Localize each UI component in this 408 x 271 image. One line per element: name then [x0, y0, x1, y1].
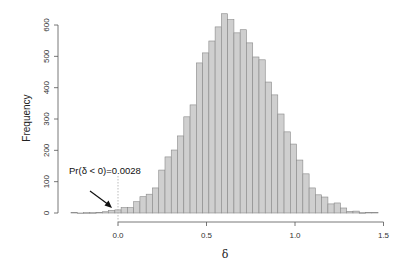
x-axis: 0.00.51.01.5 — [112, 222, 389, 240]
histogram-bar — [96, 212, 102, 213]
x-tick-label: 1.5 — [378, 231, 390, 240]
histogram-bar — [203, 53, 209, 213]
histogram-bar — [228, 20, 234, 213]
histogram-bar — [165, 157, 171, 213]
y-tick-label: 0 — [42, 210, 51, 215]
histogram-bar — [272, 95, 278, 213]
histogram-bar — [77, 213, 83, 214]
histogram-bar — [134, 202, 140, 213]
histogram-bar — [146, 194, 152, 213]
y-tick-label: 300 — [42, 112, 51, 126]
histogram-bars — [71, 14, 378, 214]
histogram-bar — [196, 63, 202, 213]
histogram-bar — [353, 211, 359, 213]
histogram-bar — [328, 204, 334, 213]
histogram-bar — [246, 43, 252, 213]
x-axis-title: δ — [222, 248, 229, 261]
histogram-bar — [347, 211, 353, 213]
histogram-bar — [171, 150, 177, 213]
histogram-bar — [334, 203, 340, 213]
histogram-chart: 0100200300400500600 0.00.51.01.5 Pr(δ < … — [0, 0, 408, 271]
y-tick-label: 500 — [42, 49, 51, 63]
histogram-bar — [284, 132, 290, 213]
histogram-bar — [253, 57, 259, 213]
histogram-bar — [127, 208, 133, 213]
x-tick-label: 0.0 — [112, 231, 124, 240]
histogram-bar — [184, 117, 190, 213]
histogram-bar — [240, 30, 246, 213]
histogram-bar — [340, 208, 346, 213]
y-axis-title: Frequency — [21, 94, 32, 141]
histogram-bar — [322, 197, 328, 213]
histogram-bar — [221, 14, 227, 213]
y-axis: 0100200300400500600 — [42, 18, 58, 215]
y-tick-label: 100 — [42, 174, 51, 188]
x-tick-label: 0.5 — [201, 231, 213, 240]
histogram-bar — [215, 27, 221, 213]
histogram-bar — [159, 170, 165, 213]
histogram-bar — [140, 197, 146, 213]
histogram-bar — [309, 188, 315, 213]
histogram-bar — [297, 160, 303, 213]
histogram-bar — [259, 60, 265, 213]
annotation-arrow — [90, 191, 112, 208]
histogram-bar — [84, 213, 90, 214]
histogram-bar — [265, 82, 271, 213]
histogram-bar — [90, 213, 96, 214]
histogram-bar — [209, 41, 215, 213]
histogram-bar — [278, 114, 284, 213]
histogram-bar — [234, 33, 240, 213]
y-tick-label: 200 — [42, 143, 51, 157]
histogram-bar — [290, 144, 296, 213]
histogram-bar — [303, 174, 309, 213]
y-tick-label: 400 — [42, 80, 51, 94]
histogram-bar — [190, 105, 196, 213]
histogram-bar — [178, 136, 184, 213]
histogram-bar — [102, 212, 108, 213]
histogram-bar — [109, 210, 115, 213]
histogram-bar — [121, 208, 127, 213]
x-tick-label: 1.0 — [289, 231, 301, 240]
histogram-bar — [71, 212, 77, 213]
histogram-bar — [359, 213, 365, 214]
probability-annotation: Pr(δ < 0)=0.0028 — [69, 165, 141, 176]
histogram-bar — [366, 212, 372, 213]
histogram-bar — [152, 188, 158, 213]
y-tick-label: 600 — [42, 18, 51, 32]
histogram-bar — [315, 195, 321, 213]
histogram-bar — [372, 212, 378, 213]
